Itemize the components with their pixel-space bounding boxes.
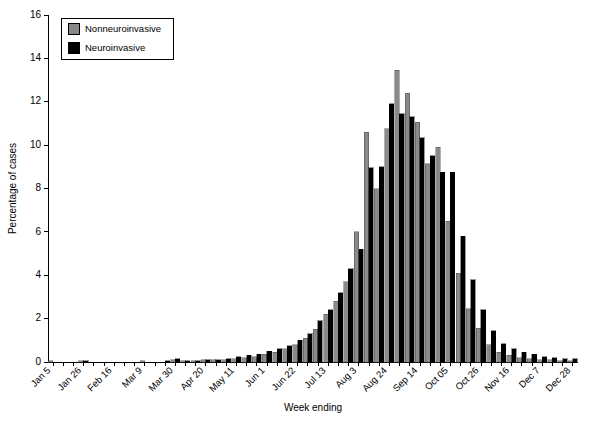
bar-neuroinvasive — [83, 361, 88, 362]
bar-neuroinvasive — [481, 310, 486, 362]
x-tick-label: Oct 26 — [453, 365, 481, 393]
bar-nonneuroinvasive — [354, 232, 359, 362]
bar-nonneuroinvasive — [436, 147, 441, 362]
bar-nonneuroinvasive — [232, 359, 237, 362]
bar-nonneuroinvasive — [395, 70, 400, 362]
x-tick-label: Apr 20 — [178, 365, 206, 393]
bar-neuroinvasive — [542, 357, 547, 362]
bar-neuroinvasive — [440, 172, 445, 362]
legend-swatch-neuroinvasive — [68, 43, 79, 54]
legend: NonneuroinvasiveNeuroinvasive — [61, 18, 173, 59]
x-tick-label: Jan 26 — [55, 365, 83, 393]
bar-neuroinvasive — [348, 269, 353, 362]
x-tick-label: Feb 16 — [85, 365, 114, 394]
bar-nonneuroinvasive — [415, 122, 420, 362]
bar-neuroinvasive — [379, 167, 384, 362]
bar-nonneuroinvasive — [201, 360, 206, 362]
y-tick-label: 4 — [35, 269, 41, 280]
y-tick-label: 10 — [30, 139, 42, 150]
bar-neuroinvasive — [226, 359, 231, 362]
bar-nonneuroinvasive — [293, 345, 298, 362]
bar-nonneuroinvasive — [548, 360, 553, 362]
bar-nonneuroinvasive — [313, 329, 318, 362]
bar-nonneuroinvasive — [324, 314, 329, 362]
bar-neuroinvasive — [216, 360, 221, 362]
bar-neuroinvasive — [185, 361, 190, 362]
bar-nonneuroinvasive — [487, 345, 492, 362]
bar-neuroinvasive — [491, 331, 496, 362]
bar-neuroinvasive — [206, 360, 211, 362]
x-tick-label: Jun 1 — [242, 365, 266, 389]
bar-neuroinvasive — [399, 114, 404, 362]
series-neuroinvasive — [83, 104, 577, 362]
bar-nonneuroinvasive — [79, 361, 84, 362]
bar-nonneuroinvasive — [558, 361, 563, 362]
x-tick-label: Aug 24 — [360, 365, 389, 394]
bar-neuroinvasive — [308, 334, 313, 362]
bar-nonneuroinvasive — [242, 358, 247, 362]
bar-neuroinvasive — [512, 349, 517, 362]
legend-swatch-nonneuroinvasive — [68, 24, 79, 35]
bar-nonneuroinvasive — [262, 354, 267, 362]
bar-nonneuroinvasive — [252, 357, 257, 362]
bar-neuroinvasive — [369, 168, 374, 362]
epidemic-curve-chart: 0246810121416Percentage of casesJan 5Jan… — [0, 0, 610, 424]
x-tick-label: Jan 5 — [28, 365, 52, 389]
bar-nonneuroinvasive — [538, 360, 543, 362]
bar-nonneuroinvasive — [374, 189, 379, 363]
bar-neuroinvasive — [501, 344, 506, 362]
y-tick-label: 2 — [35, 312, 41, 323]
bar-neuroinvasive — [298, 340, 303, 362]
bar-nonneuroinvasive — [334, 301, 339, 362]
bar-neuroinvasive — [236, 357, 241, 362]
y-tick-label: 6 — [35, 226, 41, 237]
y-tick-label: 12 — [30, 95, 42, 106]
bar-nonneuroinvasive — [446, 221, 451, 362]
bar-neuroinvasive — [563, 359, 568, 362]
bar-nonneuroinvasive — [517, 358, 522, 362]
bar-nonneuroinvasive — [405, 93, 410, 362]
y-tick-label: 8 — [35, 182, 41, 193]
bar-nonneuroinvasive — [171, 360, 176, 362]
bar-neuroinvasive — [338, 293, 343, 362]
bar-neuroinvasive — [450, 172, 455, 362]
bar-neuroinvasive — [522, 352, 527, 362]
bar-neuroinvasive — [359, 249, 364, 362]
bar-neuroinvasive — [267, 351, 272, 362]
x-tick-label: Dec 7 — [516, 365, 541, 390]
bar-nonneuroinvasive — [222, 360, 227, 362]
x-tick-label: Aug 3 — [333, 365, 358, 390]
x-axis-title: Week ending — [284, 402, 342, 413]
bar-neuroinvasive — [165, 361, 170, 362]
x-tick-label: Oct 05 — [422, 365, 450, 393]
bar-nonneuroinvasive — [344, 282, 349, 362]
x-tick-label: Jun 22 — [269, 365, 297, 393]
x-tick-label: Jul 13 — [302, 365, 328, 391]
bar-nonneuroinvasive — [211, 360, 216, 362]
bar-nonneuroinvasive — [140, 361, 145, 362]
bar-nonneuroinvasive — [191, 361, 196, 362]
x-tick-label: Nov 16 — [482, 365, 511, 394]
bar-nonneuroinvasive — [456, 273, 461, 362]
bar-nonneuroinvasive — [303, 338, 308, 362]
bar-nonneuroinvasive — [425, 164, 430, 362]
legend-label-nonneuroinvasive: Nonneuroinvasive — [85, 23, 161, 34]
bar-neuroinvasive — [328, 310, 333, 362]
x-tick-label: Dec 28 — [543, 365, 572, 394]
bar-nonneuroinvasive — [273, 352, 278, 362]
bar-neuroinvasive — [277, 349, 282, 362]
bar-neuroinvasive — [175, 359, 180, 362]
x-tick-label: May 11 — [207, 365, 236, 394]
chart-canvas: 0246810121416Percentage of casesJan 5Jan… — [0, 0, 610, 424]
bar-neuroinvasive — [318, 321, 323, 362]
bar-neuroinvasive — [573, 359, 578, 362]
y-axis-title: Percentage of cases — [7, 143, 18, 234]
y-tick-label: 16 — [30, 9, 42, 20]
bar-nonneuroinvasive — [385, 129, 390, 362]
bar-neuroinvasive — [532, 354, 537, 362]
bar-nonneuroinvasive — [283, 349, 288, 362]
bar-nonneuroinvasive — [497, 352, 502, 362]
y-tick-label: 0 — [35, 356, 41, 367]
series-nonneuroinvasive — [48, 70, 572, 362]
bar-nonneuroinvasive — [476, 328, 481, 362]
